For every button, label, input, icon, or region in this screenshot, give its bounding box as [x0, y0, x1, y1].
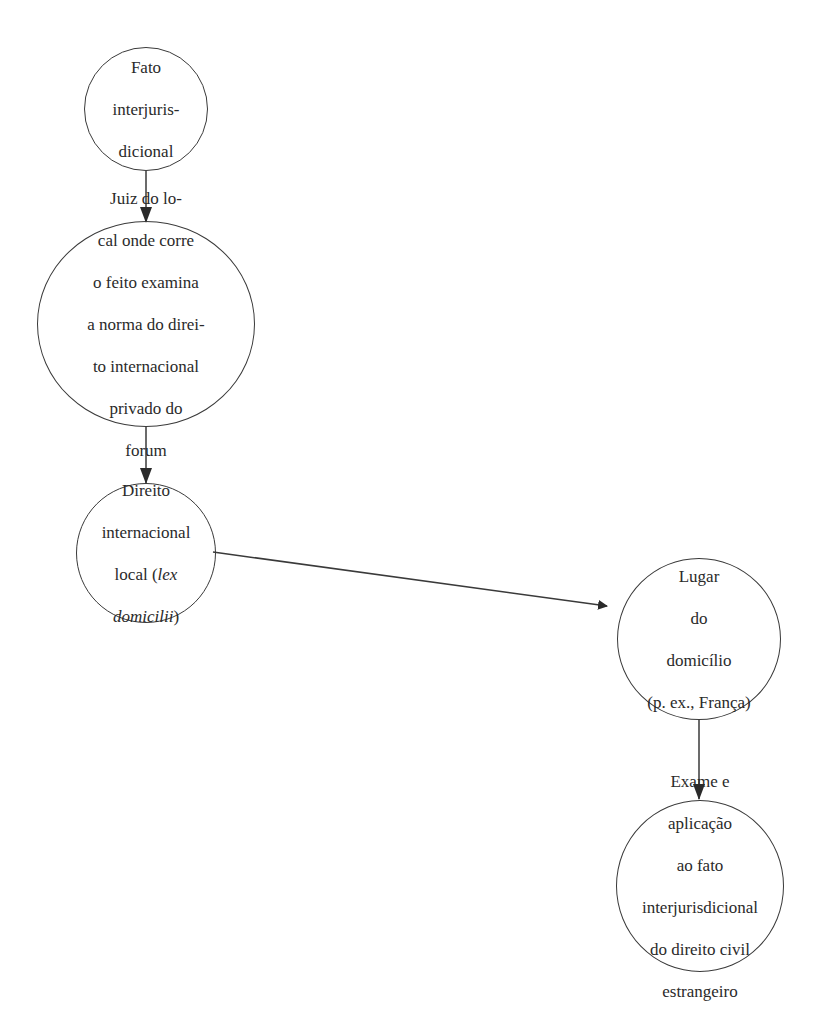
label-line: domicílio	[647, 650, 750, 671]
label-text: local (	[115, 565, 158, 584]
label-line: a norma do direi-	[87, 314, 205, 335]
node-label: Lugar do domicílio (p. ex., França)	[647, 545, 750, 734]
label-line: (p. ex., França)	[647, 692, 750, 713]
label-line: ao fato	[642, 855, 758, 876]
label-line: Fato	[112, 57, 179, 78]
label-line: to internacional	[87, 356, 205, 377]
label-line: dicional	[112, 141, 179, 162]
node-label: Exame e aplicação ao fato interjurisdici…	[642, 750, 758, 1011]
node-label: Juiz do lo- cal onde corre o feito exami…	[87, 167, 205, 482]
label-line: Lugar	[647, 566, 750, 587]
label-line: do direito civil	[642, 939, 758, 960]
label-line: estrangeiro	[642, 981, 758, 1002]
label-line: Juiz do lo-	[87, 188, 205, 209]
label-line: internacional	[102, 522, 191, 543]
node-fato-interjurisdicional: Fato interjuris- dicional	[84, 47, 208, 171]
label-text: )	[173, 607, 179, 626]
node-juiz-examina-norma: Juiz do lo- cal onde corre o feito exami…	[37, 221, 255, 427]
label-line: interjuris-	[112, 99, 179, 120]
node-label: Direito internacional local (lex domicil…	[102, 459, 191, 648]
node-label: Fato interjuris- dicional	[112, 36, 179, 183]
label-line: local (lex	[102, 564, 191, 585]
node-direito-internacional-local: Direito internacional local (lex domicil…	[76, 483, 216, 623]
label-line: aplicação	[642, 813, 758, 834]
label-line: domicilii)	[102, 606, 191, 627]
label-line: o feito examina	[87, 272, 205, 293]
label-line: do	[647, 608, 750, 629]
label-line: Exame e	[642, 771, 758, 792]
label-line: privado do	[87, 398, 205, 419]
node-exame-e-aplicacao: Exame e aplicação ao fato interjurisdici…	[616, 800, 784, 972]
label-line: forum	[87, 440, 205, 461]
label-line: Direito	[102, 480, 191, 501]
label-italic: domicilii	[113, 607, 173, 626]
label-italic: lex	[158, 565, 178, 584]
edge-n3-n4	[213, 552, 607, 606]
label-line: cal onde corre	[87, 230, 205, 251]
label-line: interjurisdicional	[642, 897, 758, 918]
node-lugar-do-domicilio: Lugar do domicílio (p. ex., França)	[617, 558, 781, 720]
